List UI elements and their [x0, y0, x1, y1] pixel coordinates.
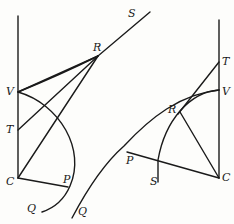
label-left-r: R — [93, 42, 101, 53]
label-left-v: V — [6, 86, 14, 97]
label-right-c: C — [222, 172, 230, 183]
label-right-v: V — [222, 86, 230, 97]
label-left-s: S — [128, 8, 136, 19]
label-right-q: Q — [78, 206, 87, 217]
label-right-p: P — [126, 155, 133, 166]
right-curve-q-p-v — [72, 90, 219, 218]
diagram-canvas — [0, 0, 234, 224]
label-left-p: P — [63, 174, 70, 185]
left-curve-vr-s — [18, 12, 150, 92]
left-arc-v-p-q — [18, 92, 75, 212]
label-left-t: T — [6, 124, 13, 135]
label-left-c: C — [6, 176, 14, 187]
label-right-r: R — [168, 104, 176, 115]
geometry-figure: S R V T C P Q T V R P S C Q — [0, 0, 234, 224]
left-line-c-p — [18, 178, 68, 187]
label-right-s: S — [150, 176, 158, 187]
label-left-q: Q — [27, 203, 36, 214]
label-right-t: T — [222, 56, 229, 67]
right-line-t-r — [178, 62, 219, 114]
